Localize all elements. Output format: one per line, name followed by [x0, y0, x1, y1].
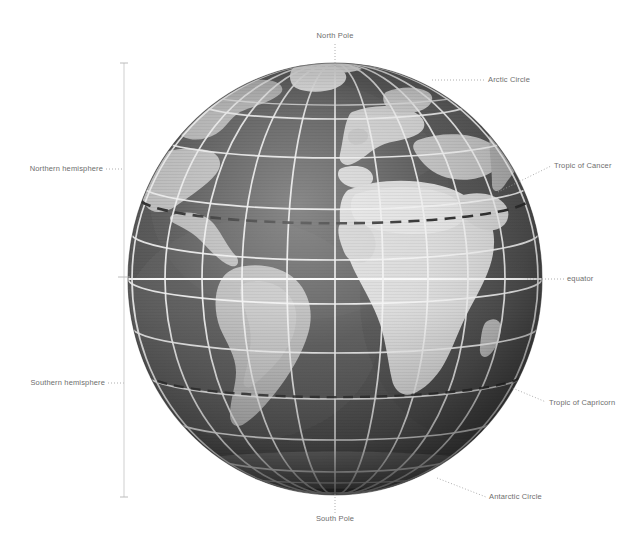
label-tropic-of-cancer: Tropic of Cancer [554, 161, 612, 171]
label-north-pole: North Pole [293, 31, 377, 41]
globe-body [118, 53, 580, 507]
label-tropic-of-capricorn: Tropic of Capricorn [549, 398, 615, 408]
leader-tropic-of-capricorn [510, 387, 546, 402]
globe-diagram: North Pole South Pole Arctic Circle Anta… [0, 0, 644, 559]
label-arctic-circle: Arctic Circle [488, 75, 530, 85]
globe-svg [0, 0, 644, 559]
label-south-pole: South Pole [293, 514, 377, 524]
label-southern-hemisphere: Southern hemisphere [0, 378, 105, 388]
label-equator: equator [567, 274, 594, 284]
globe-surface [118, 53, 580, 507]
label-northern-hemisphere: Northern hemisphere [0, 164, 103, 174]
leader-antarctic-circle [437, 478, 486, 497]
label-antarctic-circle: Antarctic Circle [489, 492, 542, 502]
